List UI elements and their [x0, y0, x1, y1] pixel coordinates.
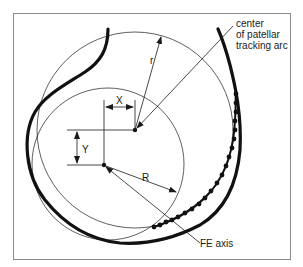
R-radius-arrow — [106, 166, 176, 192]
femoral-geometry-diagram: X Y r R center of patellar tracking arc … — [0, 0, 303, 267]
femur-condyle-outline — [27, 29, 240, 243]
fe-axis-circle — [32, 88, 184, 240]
R-label: R — [142, 172, 149, 183]
center-label-line3: tracking arc — [236, 40, 288, 51]
fe-axis-label: FE axis — [200, 238, 233, 249]
center-leader-arrow — [137, 26, 233, 128]
fe-axis-leader-arrow — [106, 167, 200, 243]
y-label: Y — [82, 144, 89, 155]
center-label-line1: center — [236, 18, 264, 29]
x-label: X — [116, 95, 123, 106]
tracking-points — [152, 92, 239, 230]
articular-surface-track — [154, 88, 236, 227]
center-label-line2: of patellar — [236, 29, 281, 40]
